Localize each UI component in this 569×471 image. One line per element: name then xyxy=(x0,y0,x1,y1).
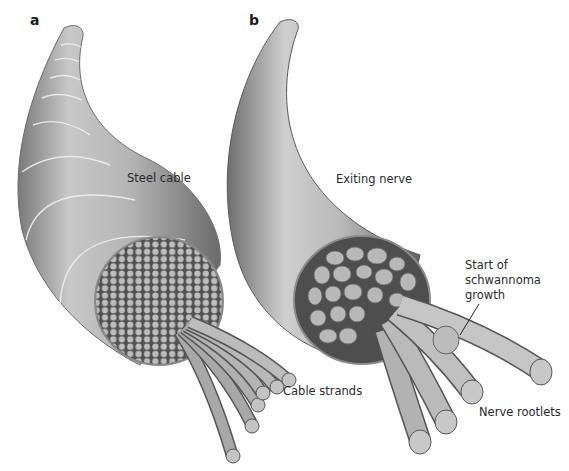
label-exiting-nerve: Exiting nerve xyxy=(336,172,412,187)
figure: a b Steel cable Cable strands Exiting ne… xyxy=(0,0,569,471)
schwannoma-bulge xyxy=(433,326,459,354)
cable-strands xyxy=(180,322,296,463)
panel-letter-a: a xyxy=(30,12,39,28)
illustration xyxy=(0,0,569,471)
label-nerve-rootlets: Nerve rootlets xyxy=(479,405,561,420)
label-schwannoma-line2: schwannoma xyxy=(465,273,541,288)
nerve-rootlets xyxy=(385,304,552,454)
panel-letter-b: b xyxy=(249,12,259,28)
label-steel-cable: Steel cable xyxy=(127,171,191,186)
label-schwannoma-line3: growth xyxy=(465,288,505,303)
label-schwannoma-line1: Start of xyxy=(465,258,508,273)
label-cable-strands: Cable strands xyxy=(283,384,362,399)
